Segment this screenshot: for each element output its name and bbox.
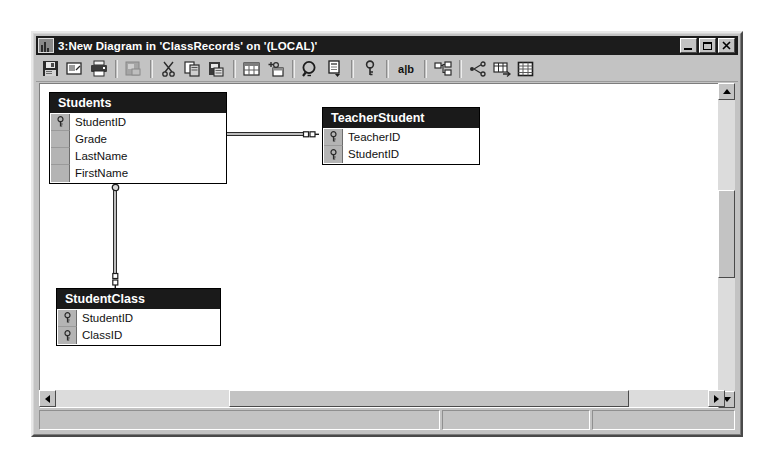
relationship-line [113,188,117,274]
screenshot-root: 3:New Diagram in 'ClassRecords' on '(LOC… [0,0,767,468]
chevron-left-icon [45,395,50,403]
key-icon [329,131,338,143]
table-row[interactable]: TeacherID [324,129,478,146]
column-properties-icon [517,61,534,77]
table-row[interactable]: LastName [51,148,225,165]
key-icon [329,149,338,161]
save-selection-button[interactable] [122,58,145,80]
printer-icon [90,60,108,77]
diagram-icon-bars [41,42,49,53]
save-button[interactable] [39,58,62,80]
relationships-button[interactable] [431,58,454,80]
primary-key-gutter [51,165,70,182]
horizontal-scrollbar[interactable] [39,390,725,407]
scroll-right-button[interactable] [708,390,725,407]
table-students-columns: StudentID Grade LastName [49,113,227,184]
column-name: StudentID [343,146,478,163]
key-icon [63,312,72,324]
print-button[interactable] [87,58,110,80]
primary-key-gutter [58,310,77,327]
magnifier-icon [301,60,320,78]
horizontal-scroll-thumb[interactable] [229,390,629,407]
primary-key-gutter [58,327,77,344]
toolbar-separator-4 [292,60,295,78]
table-studentclass[interactable]: StudentClass StudentID [56,288,221,346]
properties-button[interactable] [323,58,346,80]
key-icon [363,60,377,77]
toolbar-separator-6 [386,60,389,78]
diagram-window: 3:New Diagram in 'ClassRecords' on '(LOC… [31,31,743,437]
copy-button[interactable] [181,58,204,80]
scroll-up-button[interactable] [718,83,735,100]
column-name: Grade [70,131,225,148]
toolbar-separator-7 [424,60,427,78]
paste-icon [208,60,225,77]
table-row[interactable]: ClassID [58,327,219,344]
status-panel-secondary [442,410,590,430]
toolbar-separator-1 [115,60,118,78]
chevron-up-icon [723,89,731,94]
diagram-canvas-frame: Students StudentID [39,83,725,408]
add-table-button[interactable] [240,58,263,80]
table-view-button[interactable] [490,58,513,80]
table-students[interactable]: Students StudentID [49,92,227,184]
set-primary-key-button[interactable] [358,58,381,80]
table-studentclass-title: StudentClass [56,288,221,309]
table-row[interactable]: StudentID [51,114,225,131]
minimize-button[interactable] [680,38,697,53]
vertical-scrollbar[interactable] [718,83,735,408]
table-view-icon [493,61,511,77]
primary-key-gutter [51,148,70,165]
table-teacherstudent[interactable]: TeacherStudent TeacherID [322,107,480,165]
primary-key-gutter [324,129,343,146]
table-row[interactable]: FirstName [51,165,225,182]
toolbar: a|b [36,56,738,82]
toolbar-separator-5 [351,60,354,78]
relationship-students-teacherstudent[interactable] [214,127,319,141]
key-icon [56,116,65,128]
title-bar[interactable]: 3:New Diagram in 'ClassRecords' on '(LOC… [36,36,738,55]
table-row[interactable]: StudentID [324,146,478,163]
new-table-icon [66,60,83,77]
table-teacherstudent-columns: TeacherID StudentID [322,128,480,165]
cut-button[interactable] [157,58,180,80]
relationship-students-studentclass[interactable] [108,180,122,290]
minimize-icon [684,48,692,50]
paste-button[interactable] [205,58,228,80]
new-text-annotation-button[interactable] [264,58,287,80]
column-name: ClassID [77,327,219,344]
table-students-title: Students [49,92,227,113]
save-selection-icon [125,60,142,77]
scroll-left-button[interactable] [39,390,56,407]
primary-key-gutter [51,131,70,148]
toolbar-separator-8 [459,60,462,78]
table-teacherstudent-title: TeacherStudent [322,107,480,128]
copy-icon [184,60,201,77]
close-icon [719,39,734,52]
show-relationship-labels-button[interactable] [466,58,489,80]
relationship-line [221,132,307,136]
maximize-icon [703,42,712,50]
window-controls [680,38,736,53]
primary-key-gutter [51,114,70,131]
status-bar [39,410,735,430]
column-names-button[interactable]: a|b [393,58,419,80]
table-row[interactable]: Grade [51,131,225,148]
status-panel-tertiary [592,410,735,430]
column-properties-button[interactable] [514,58,537,80]
zoom-button[interactable] [299,58,322,80]
toolbar-separator-2 [150,60,153,78]
column-name: LastName [70,148,225,165]
new-table-button[interactable] [63,58,86,80]
properties-page-icon [326,60,343,77]
table-row[interactable]: StudentID [58,310,219,327]
column-name: TeacherID [343,129,478,146]
vertical-scroll-thumb[interactable] [718,190,735,278]
add-annotation-icon [267,61,284,77]
key-icon [63,330,72,342]
column-name: StudentID [77,310,219,327]
maximize-button[interactable] [699,38,716,53]
close-button[interactable] [718,38,735,53]
diagram-canvas[interactable]: Students StudentID [40,84,708,391]
window-title: 3:New Diagram in 'ClassRecords' on '(LOC… [58,40,680,52]
